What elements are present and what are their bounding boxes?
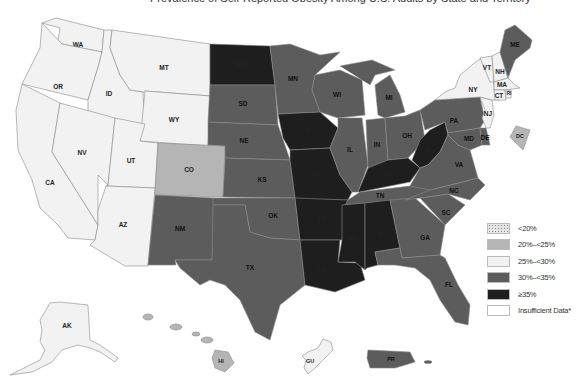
svg-text:NH: NH [495, 68, 505, 75]
svg-text:AK: AK [62, 322, 72, 329]
svg-text:DC: DC [516, 133, 524, 139]
legend-swatch-30-35 [487, 272, 510, 283]
svg-text:OK: OK [268, 212, 278, 219]
legend-item-25-30: 25%–<30% [487, 253, 571, 270]
state-SD[interactable]: SD [208, 85, 278, 125]
legend-item-lt20: <20% [487, 220, 571, 237]
state-CO[interactable]: CO [155, 143, 225, 197]
svg-text:OH: OH [402, 132, 412, 139]
svg-text:DE: DE [480, 134, 490, 141]
svg-text:WV: WV [425, 146, 436, 153]
svg-text:LA: LA [318, 266, 327, 273]
svg-text:ND: ND [235, 61, 245, 68]
svg-text:TX: TX [246, 264, 255, 271]
svg-text:AZ: AZ [119, 221, 128, 228]
state-DC[interactable]: DC [510, 126, 530, 150]
state-NM[interactable]: NM [148, 195, 215, 265]
state-PR[interactable]: PR [367, 350, 432, 368]
svg-text:MA: MA [497, 81, 507, 88]
svg-text:NC: NC [449, 187, 459, 194]
legend-label: 30%–<35% [518, 273, 555, 282]
svg-text:PR: PR [387, 356, 395, 362]
legend-item-20-25: 20%–<25% [487, 237, 571, 254]
legend-swatch-insufficient [487, 305, 510, 316]
svg-text:KS: KS [257, 176, 267, 183]
state-GU[interactable]: GU [302, 339, 333, 374]
svg-text:MN: MN [288, 75, 298, 82]
svg-text:SC: SC [441, 209, 450, 216]
svg-text:VA: VA [455, 161, 464, 168]
svg-text:ID: ID [106, 90, 113, 97]
state-AK[interactable]: AK [10, 302, 118, 375]
svg-text:MI: MI [385, 94, 392, 101]
svg-text:PA: PA [450, 117, 459, 124]
svg-text:KY: KY [385, 172, 395, 179]
state-ND[interactable]: ND [210, 44, 275, 85]
svg-text:NY: NY [468, 86, 478, 93]
svg-text:SD: SD [238, 100, 247, 107]
svg-text:MT: MT [159, 64, 168, 71]
state-CT[interactable]: CT [494, 90, 506, 100]
state-MA[interactable]: MA [494, 78, 520, 90]
svg-text:NV: NV [77, 149, 87, 156]
svg-text:WY: WY [169, 116, 180, 123]
legend-label: 20%–<25% [518, 240, 555, 249]
state-WY[interactable]: WY [140, 91, 210, 146]
legend-swatch-lt20 [487, 223, 510, 234]
legend-item-30-35: 30%–<35% [487, 270, 571, 287]
state-PA[interactable]: PA [420, 97, 485, 133]
legend-item-ge35: ≥35% [487, 286, 571, 303]
map-legend: <20% 20%–<25% 25%–<30% 30%–<35% ≥35% Ins… [487, 220, 571, 319]
svg-text:OR: OR [53, 83, 63, 90]
svg-text:RI: RI [507, 90, 513, 96]
svg-text:IA: IA [304, 126, 311, 133]
svg-text:CO: CO [184, 166, 194, 173]
state-AZ[interactable]: AZ [90, 186, 155, 266]
svg-text:MS: MS [347, 234, 357, 241]
state-FL[interactable]: FL [375, 248, 470, 325]
legend-label: 25%–<30% [518, 257, 555, 266]
svg-text:CA: CA [45, 179, 55, 186]
svg-text:IL: IL [347, 146, 353, 153]
legend-swatch-20-25 [487, 239, 510, 250]
svg-text:VT: VT [483, 64, 491, 71]
legend-label: <20% [518, 224, 537, 233]
state-IA[interactable]: IA [278, 112, 338, 150]
svg-text:MO: MO [313, 171, 323, 178]
legend-swatch-ge35 [487, 289, 510, 300]
state-MS[interactable]: MS [338, 203, 365, 270]
state-AR[interactable]: AR [295, 198, 348, 240]
us-choropleth-map: WA OR CA ID NV MT WY UT AZ CO NM [0, 0, 580, 390]
svg-text:AR: AR [317, 215, 327, 222]
svg-text:GU: GU [306, 358, 314, 364]
legend-item-insufficient: Insufficient Data* [487, 303, 571, 320]
state-RI[interactable]: RI [505, 90, 512, 98]
legend-swatch-25-30 [487, 256, 510, 267]
svg-text:TN: TN [376, 192, 385, 199]
svg-text:ME: ME [510, 41, 520, 48]
svg-text:GA: GA [420, 234, 430, 241]
svg-text:NE: NE [239, 137, 249, 144]
svg-text:NJ: NJ [484, 110, 493, 117]
svg-text:WI: WI [333, 91, 341, 98]
svg-text:UT: UT [127, 157, 136, 164]
state-WI[interactable]: WI [312, 70, 365, 118]
state-HI[interactable]: HI [143, 314, 234, 372]
svg-text:IN: IN [374, 141, 381, 148]
state-DE[interactable]: DE [480, 128, 490, 145]
svg-text:CT: CT [495, 92, 504, 99]
legend-label: Insufficient Data* [518, 306, 571, 315]
svg-text:HI: HI [218, 358, 224, 364]
state-KS[interactable]: KS [223, 158, 295, 198]
svg-text:AL: AL [378, 231, 387, 238]
svg-text:NM: NM [175, 225, 185, 232]
legend-label: ≥35% [518, 290, 536, 299]
svg-text:MD: MD [464, 135, 474, 142]
svg-text:FL: FL [445, 281, 453, 288]
